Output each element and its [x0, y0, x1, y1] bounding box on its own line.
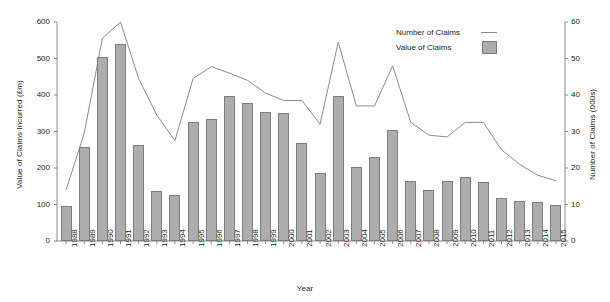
- legend-item-value-of-claims: Value of Claims: [396, 40, 497, 55]
- bar: [278, 113, 289, 241]
- x-axis-tick: 2010: [469, 229, 478, 247]
- y-axis-right-tick: 40: [571, 90, 601, 99]
- x-axis-tick: 2012: [505, 229, 514, 247]
- legend-label-number-of-claims: Number of Claims: [396, 28, 481, 37]
- bar: [333, 96, 344, 241]
- x-axis-tick: 2003: [342, 229, 351, 247]
- x-axis-tick: 2007: [414, 229, 423, 247]
- y-axis-left-tick: 300: [20, 127, 50, 136]
- chart-legend: Number of Claims Value of Claims: [396, 25, 497, 55]
- x-axis-tick: 2006: [396, 229, 405, 247]
- x-axis-tick: 2014: [541, 229, 550, 247]
- bar: [224, 96, 235, 241]
- bar: [133, 145, 144, 241]
- y-axis-left-tick: 200: [20, 163, 50, 172]
- x-axis-tick: 2009: [451, 229, 460, 247]
- x-axis-tick: 2013: [523, 229, 532, 247]
- bar: [206, 119, 217, 241]
- bar: [115, 44, 126, 241]
- legend-swatch-icon: [482, 41, 497, 54]
- y-axis-right-tick: 0: [571, 236, 601, 245]
- y-axis-left-tick: 500: [20, 54, 50, 63]
- x-axis-tick: 2002: [324, 229, 333, 247]
- x-axis-tick: 2000: [287, 229, 296, 247]
- bar: [260, 112, 271, 241]
- x-axis-tick: 2008: [432, 229, 441, 247]
- y-axis-left-tick: 100: [20, 200, 50, 209]
- bar: [79, 147, 90, 241]
- legend-line-icon: [481, 32, 497, 33]
- x-axis-tick: 1992: [142, 229, 151, 247]
- bar: [97, 57, 108, 241]
- chart-container: Value of Claims Incurred (£m) Number of …: [0, 0, 610, 302]
- bar: [296, 143, 307, 241]
- x-axis-tick: 1993: [160, 229, 169, 247]
- x-axis-tick: 2015: [559, 229, 568, 247]
- x-axis-tick: 1996: [215, 229, 224, 247]
- y-axis-right-tick: 60: [571, 17, 601, 26]
- y-axis-right-tick: 50: [571, 54, 601, 63]
- legend-item-number-of-claims: Number of Claims: [396, 25, 497, 40]
- x-axis-tick: 1990: [106, 229, 115, 247]
- bar: [188, 122, 199, 241]
- x-axis-tick: 1998: [251, 229, 260, 247]
- bar: [387, 130, 398, 241]
- bar: [242, 103, 253, 241]
- x-axis-tick: 1989: [88, 229, 97, 247]
- x-axis-tick: 1991: [124, 229, 133, 247]
- legend-label-value-of-claims: Value of Claims: [396, 43, 481, 52]
- x-axis-tick: 2005: [378, 229, 387, 247]
- x-axis-tick: 1994: [178, 229, 187, 247]
- y-axis-right-tick: 30: [571, 127, 601, 136]
- y-axis-right-tick: 20: [571, 163, 601, 172]
- x-axis-tick: 1988: [70, 229, 79, 247]
- x-axis-tick: 2011: [487, 230, 496, 247]
- x-axis-tick: 2004: [360, 229, 369, 247]
- y-axis-left-tick: 600: [20, 17, 50, 26]
- x-axis-tick: 1999: [269, 229, 278, 247]
- y-axis-left-tick: 0: [20, 236, 50, 245]
- y-axis-left-tick: 400: [20, 90, 50, 99]
- x-axis-tick: 1995: [197, 229, 206, 247]
- y-axis-right-tick: 10: [571, 200, 601, 209]
- x-axis-tick: 1997: [233, 229, 242, 247]
- x-axis-tick: 2001: [305, 229, 314, 247]
